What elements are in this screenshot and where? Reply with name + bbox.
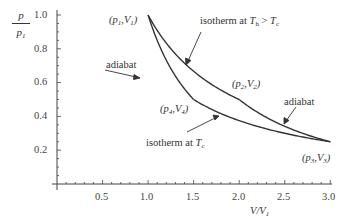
annotation-arrows <box>105 32 296 132</box>
arrowhead-iso-hot <box>186 58 192 65</box>
arrow-iso-cold <box>187 118 215 132</box>
x-tick-1.5: 1.5 <box>186 192 199 203</box>
y-axis-label: p p1 <box>12 9 30 40</box>
annotation-isotherm-hot: isotherm at Th > Tc <box>200 16 279 28</box>
annotation-adiabat-right: adiabat <box>284 97 314 108</box>
point-label-p3v3: (p3,V3) <box>302 153 330 165</box>
x-tick-2.0: 2.0 <box>232 192 245 203</box>
y-tick-0.2: 0.2 <box>34 145 47 156</box>
y-label-numerator: p <box>18 9 24 21</box>
x-tick-2.5: 2.5 <box>277 192 290 203</box>
y-tick-1.0: 1.0 <box>34 10 47 21</box>
x-tick-0.5: 0.5 <box>95 192 108 203</box>
arrow-adiabat-left <box>105 70 136 77</box>
y-label-denominator: p1 <box>17 26 26 38</box>
arrowhead-iso-cold <box>213 115 219 120</box>
x-tick-3.0: 3.0 <box>322 192 335 203</box>
y-tick-0.8: 0.8 <box>34 44 47 55</box>
arrowhead-adiabat-left <box>134 75 141 80</box>
point-label-p2v2: (p2,V2) <box>232 79 260 91</box>
arrow-adiabat-right <box>286 107 296 121</box>
point-label-p1v1: (p1,V1) <box>109 15 137 27</box>
y-tick-0.6: 0.6 <box>34 77 47 88</box>
point-label-p4v4: (p4,V4) <box>160 104 188 116</box>
annotation-adiabat-left: adiabat <box>106 60 136 71</box>
fraction-bar <box>12 23 30 24</box>
x-axis-label: V/V1 <box>250 206 269 218</box>
x-tick-1.0: 1.0 <box>140 192 153 203</box>
y-tick-0.4: 0.4 <box>34 111 47 122</box>
arrow-iso-hot <box>188 32 201 61</box>
annotation-isotherm-cold: isotherm at Tc <box>146 138 205 150</box>
